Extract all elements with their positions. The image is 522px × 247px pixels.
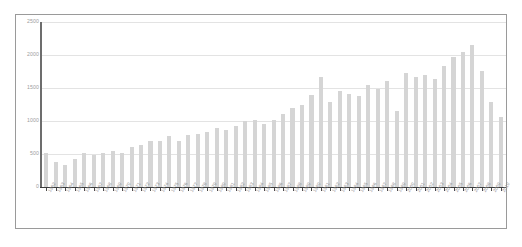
bar[interactable] [158, 141, 162, 187]
bar-series [42, 22, 506, 187]
y-axis-labels: 25002000150010005000 [16, 15, 40, 230]
bar[interactable] [395, 111, 399, 187]
x-axis-labels: 1962196319641965196619671968196919701971… [42, 191, 506, 227]
bar[interactable] [461, 52, 465, 187]
chart-frame: 25002000150010005000 1962196319641965196… [15, 14, 507, 229]
bar[interactable] [253, 120, 257, 187]
bar[interactable] [272, 120, 276, 187]
bar[interactable] [451, 57, 455, 187]
bar[interactable] [205, 132, 209, 187]
bar[interactable] [433, 79, 437, 187]
bar[interactable] [300, 105, 304, 188]
bar[interactable] [404, 73, 408, 187]
bar[interactable] [130, 147, 134, 187]
bar[interactable] [234, 126, 238, 187]
bar[interactable] [328, 102, 332, 187]
bar[interactable] [489, 102, 493, 187]
y-tick-label: 1000 [27, 118, 39, 123]
bar[interactable] [376, 89, 380, 187]
y-tick-label: 2000 [27, 52, 39, 57]
chart-plot-wrapper: 25002000150010005000 1962196319641965196… [16, 15, 506, 228]
bar[interactable] [262, 124, 266, 187]
bar[interactable] [423, 75, 427, 187]
bar[interactable] [442, 66, 446, 187]
bar[interactable] [215, 128, 219, 187]
bar[interactable] [44, 153, 48, 187]
bar[interactable] [290, 108, 294, 187]
bar[interactable] [499, 117, 503, 187]
bar[interactable] [338, 91, 342, 187]
plot-area [42, 22, 506, 187]
bar[interactable] [385, 81, 389, 187]
bar[interactable] [92, 155, 96, 187]
bar[interactable] [82, 153, 86, 187]
y-tick-label: 0 [36, 184, 39, 189]
y-tick-label: 1500 [27, 85, 39, 90]
bar[interactable] [414, 77, 418, 187]
bar[interactable] [347, 94, 351, 187]
bar[interactable] [309, 95, 313, 187]
bar[interactable] [177, 141, 181, 187]
bar[interactable] [243, 121, 247, 187]
y-tick-label: 2500 [27, 19, 39, 24]
bar[interactable] [366, 85, 370, 187]
bar[interactable] [148, 141, 152, 187]
bar[interactable] [111, 151, 115, 187]
bar[interactable] [196, 134, 200, 187]
bar[interactable] [186, 135, 190, 187]
bar[interactable] [167, 136, 171, 187]
bar[interactable] [319, 77, 323, 187]
bar[interactable] [480, 71, 484, 187]
bar[interactable] [357, 96, 361, 187]
bar[interactable] [281, 114, 285, 187]
bar[interactable] [470, 45, 474, 187]
bar[interactable] [224, 130, 228, 187]
y-tick-label: 500 [30, 151, 39, 156]
bar[interactable] [139, 145, 143, 187]
